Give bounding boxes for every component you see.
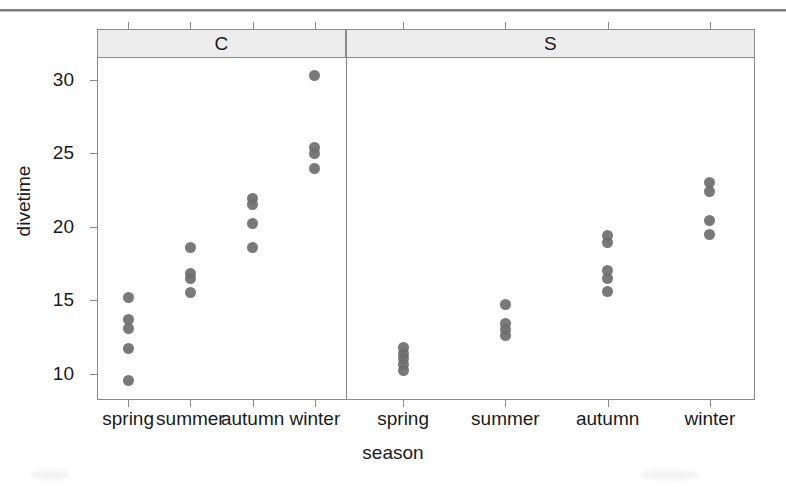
data-point	[602, 286, 613, 297]
data-point	[123, 323, 134, 334]
figure-container: C S 1015202530 springsummerautumnwinters…	[0, 0, 786, 487]
x-tick-label: spring	[102, 408, 154, 430]
x-tick	[128, 400, 129, 407]
data-point	[500, 330, 511, 341]
y-tick	[90, 300, 97, 301]
x-tick-top	[315, 22, 316, 29]
x-axis-title: season	[0, 442, 786, 464]
data-point	[309, 163, 320, 174]
x-tick	[608, 400, 609, 407]
data-point	[123, 292, 134, 303]
scan-artifact	[640, 470, 700, 480]
x-tick-top	[608, 22, 609, 29]
x-tick-label: autumn	[576, 408, 639, 430]
data-point	[602, 273, 613, 284]
plot-frame	[97, 29, 755, 400]
x-tick	[190, 400, 191, 407]
y-tick	[90, 153, 97, 154]
x-tick-top	[710, 22, 711, 29]
x-tick-label: winter	[290, 408, 341, 430]
page-top-rule-shadow	[0, 11, 786, 12]
panel-strip-s-label: S	[544, 33, 557, 55]
x-tick	[315, 400, 316, 407]
x-tick-top	[505, 22, 506, 29]
x-tick-label: autumn	[221, 408, 284, 430]
data-point	[500, 299, 511, 310]
x-tick-top	[253, 22, 254, 29]
data-point	[398, 365, 409, 376]
panel-strip-c: C	[97, 29, 346, 58]
y-tick	[90, 227, 97, 228]
x-tick	[710, 400, 711, 407]
x-tick-label: spring	[377, 408, 429, 430]
data-point	[185, 242, 196, 253]
x-tick	[505, 400, 506, 407]
x-tick-top	[403, 22, 404, 29]
data-point	[123, 375, 134, 386]
panel-strip-s: S	[346, 29, 755, 58]
data-point	[123, 343, 134, 354]
x-tick-label: winter	[685, 408, 736, 430]
x-tick	[403, 400, 404, 407]
data-point	[247, 242, 258, 253]
x-tick	[253, 400, 254, 407]
data-point	[185, 273, 196, 284]
y-axis-title: divetime	[13, 101, 35, 301]
scan-artifact	[30, 470, 70, 480]
x-tick-label: summer	[156, 408, 225, 430]
y-tick-label: 10	[0, 363, 86, 385]
data-point	[704, 229, 715, 240]
x-tick-label: summer	[471, 408, 540, 430]
x-tick-top	[128, 22, 129, 29]
y-tick-label: 30	[0, 69, 86, 91]
y-tick	[90, 374, 97, 375]
y-tick	[90, 80, 97, 81]
panel-divider	[346, 58, 347, 400]
x-tick-top	[190, 22, 191, 29]
panel-strip-c-label: C	[214, 33, 228, 55]
